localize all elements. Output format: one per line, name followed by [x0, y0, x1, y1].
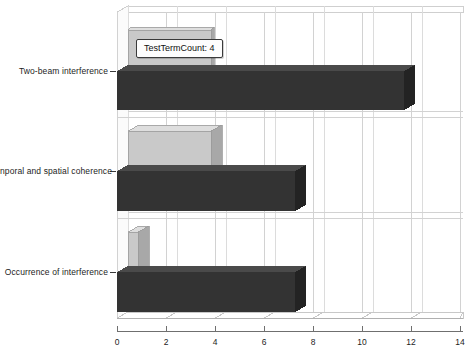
bar-chart: Two-beam interference nporal and spatial… [0, 0, 473, 361]
x-axis [117, 326, 463, 331]
x-tick-label-2: 2 [152, 337, 180, 347]
y-axis-label-occurrence-of-interference: Occurrence of interference [0, 267, 108, 277]
x-tick-label-0: 0 [103, 337, 131, 347]
x-tick-label-12: 12 [397, 337, 425, 347]
plot-floor [117, 312, 463, 318]
bar-two-beam-interference-traintermcount[interactable] [117, 65, 415, 110]
y-axis-label-temporal-and-spatial-coherence: nporal and spatial coherence [0, 166, 108, 176]
bar-temporal-spatial-coherence-traintermcount[interactable] [117, 165, 306, 211]
bar-occurrence-of-interference-traintermcount[interactable] [117, 266, 306, 312]
x-tick-label-8: 8 [299, 337, 327, 347]
y-axis-label-two-beam-interference: Two-beam interference [0, 66, 108, 76]
bar-temporal-spatial-coherence-testtermcount[interactable] [128, 125, 222, 171]
y-axis-labels: Two-beam interference nporal and spatial… [0, 0, 117, 361]
x-axis-ticks [117, 326, 460, 331]
x-tick-label-4: 4 [201, 337, 229, 347]
x-tick-label-6: 6 [250, 337, 278, 347]
x-tick-label-14: 14 [446, 337, 473, 347]
x-tick-label-10: 10 [348, 337, 376, 347]
bar-occurrence-of-interference-testtermcount[interactable] [128, 226, 149, 272]
bar-tooltip: TestTermCount: 4 [136, 39, 223, 58]
